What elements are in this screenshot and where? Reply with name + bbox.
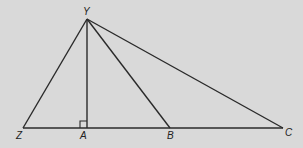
label-Z: Z bbox=[15, 130, 23, 141]
segment-YC bbox=[87, 19, 283, 128]
label-C: C bbox=[285, 127, 293, 138]
label-B: B bbox=[167, 130, 174, 141]
segment-YZ bbox=[23, 19, 87, 128]
segment-YB bbox=[87, 19, 170, 128]
label-A: A bbox=[79, 130, 87, 141]
diagram-canvas: Y Z A B C bbox=[0, 0, 303, 148]
label-Y: Y bbox=[83, 6, 91, 17]
right-angle-marker bbox=[80, 121, 87, 128]
geometry-diagram: Y Z A B C bbox=[0, 0, 303, 148]
